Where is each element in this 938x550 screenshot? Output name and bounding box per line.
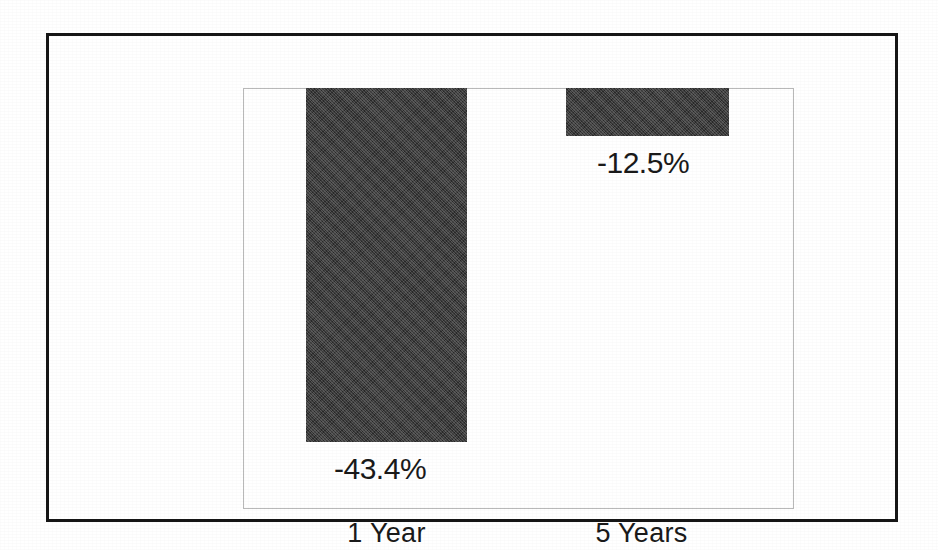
value-label-5-years: -12.5% (597, 148, 689, 178)
chart-plot-area: -43.4% -12.5% (243, 88, 794, 509)
bar-1-year[interactable] (306, 88, 467, 442)
outer-border-frame: -43.4% -12.5% 1 Year 5 Years (46, 33, 898, 522)
value-label-1-year: -43.4% (334, 454, 426, 484)
chart-page: -43.4% -12.5% 1 Year 5 Years (0, 0, 938, 550)
bar-5-years[interactable] (566, 88, 729, 136)
category-label-5-years: 5 Years (534, 520, 749, 547)
category-label-1-year: 1 Year (279, 520, 494, 547)
